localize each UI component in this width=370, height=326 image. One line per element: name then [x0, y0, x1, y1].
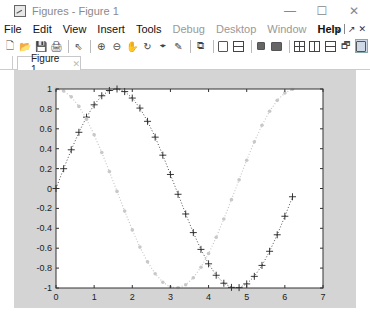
insert-legend-icon[interactable] — [232, 39, 245, 53]
undock-icon[interactable]: ↘ — [333, 24, 341, 34]
dot-marker — [153, 272, 157, 276]
zoom-out-icon[interactable]: ⊖ — [110, 39, 123, 53]
tab-figure-1[interactable]: Figure 1 ✕ — [17, 56, 81, 70]
tile-top-bottom-icon[interactable] — [324, 39, 337, 53]
hide-plot-tools-icon[interactable] — [255, 39, 268, 53]
line-plot[interactable]: 01234567-1-0.8-0.6-0.4-0.200.20.40.60.81 — [14, 70, 356, 308]
new-figure-icon[interactable]: 🗋 — [3, 39, 16, 53]
y-tick-label: -0.6 — [36, 243, 52, 253]
x-tick-label: 5 — [244, 292, 249, 302]
brush-icon[interactable]: ✎ — [172, 39, 185, 53]
edit-plot-icon[interactable]: ⇖ — [72, 39, 85, 53]
dot-marker — [130, 228, 134, 232]
show-plot-tools-icon[interactable] — [270, 39, 283, 53]
menu-insert[interactable]: Insert — [97, 23, 125, 35]
dot-marker — [62, 89, 66, 93]
toolbar-separator — [90, 40, 91, 53]
close-button[interactable]: ✕ — [338, 0, 370, 22]
float-icon[interactable]: 🗗 — [339, 39, 352, 53]
x-tick-label: 4 — [206, 292, 211, 302]
x-tick-label: 6 — [282, 292, 287, 302]
axes-background — [56, 89, 323, 288]
dot-marker — [146, 260, 150, 264]
dot-marker — [245, 158, 249, 162]
y-tick-label: -0.4 — [36, 223, 52, 233]
data-cursor-icon[interactable]: ⌖ — [156, 39, 169, 53]
y-tick-label: 0 — [47, 184, 52, 194]
y-tick-label: -1 — [44, 283, 52, 293]
menu-view[interactable]: View — [63, 23, 87, 35]
toolbar-separator — [68, 40, 69, 53]
dot-marker — [207, 252, 211, 256]
y-tick-label: 0.6 — [39, 124, 52, 134]
toolbar-separator — [289, 40, 290, 53]
dot-marker — [199, 265, 203, 269]
dock-separator — [344, 24, 345, 34]
menu-bar: File Edit View Insert Tools Debug Deskto… — [0, 22, 370, 36]
x-tick-label: 2 — [130, 292, 135, 302]
toolbar-separator — [213, 40, 214, 53]
y-tick-label: 0.4 — [39, 144, 52, 154]
maximize-button[interactable]: ☐ — [306, 0, 338, 22]
dock-controls: ↘ ↗ ✕ — [333, 22, 366, 36]
y-tick-label: -0.2 — [36, 203, 52, 213]
close-figure-icon[interactable]: ✕ — [358, 24, 366, 34]
menu-edit[interactable]: Edit — [33, 23, 52, 35]
maximize-figure-icon[interactable] — [355, 39, 369, 53]
window-title: Figures - Figure 1 — [32, 5, 119, 17]
menu-window[interactable]: Window — [267, 23, 306, 35]
float-window-icon[interactable]: ↗ — [348, 24, 356, 34]
tab-strip-edge — [12, 56, 13, 70]
open-file-icon[interactable]: 📂 — [18, 39, 31, 53]
dot-marker — [260, 124, 264, 128]
menu-tools[interactable]: Tools — [136, 23, 162, 35]
x-tick-label: 7 — [320, 292, 325, 302]
tab-close-icon[interactable]: ✕ — [72, 59, 80, 69]
dot-marker — [108, 170, 112, 174]
zoom-in-icon[interactable]: ⊕ — [94, 39, 107, 53]
menu-desktop[interactable]: Desktop — [216, 23, 256, 35]
window-controls: — ☐ ✕ — [274, 0, 370, 22]
print-icon[interactable]: 🖨 — [49, 39, 62, 53]
dot-marker — [69, 95, 73, 99]
save-icon[interactable]: 💾 — [34, 39, 47, 53]
minimize-button[interactable]: — — [274, 0, 306, 22]
dot-marker — [268, 109, 272, 113]
figure-canvas: 01234567-1-0.8-0.6-0.4-0.200.20.40.60.81 — [14, 70, 356, 308]
figure-tab-strip: Figure 1 ✕ — [0, 56, 370, 70]
dot-marker — [230, 198, 234, 202]
dot-marker — [253, 140, 257, 144]
rotate-3d-icon[interactable]: ↻ — [141, 39, 154, 53]
toolbar-separator — [190, 40, 191, 53]
y-tick-label: 1 — [47, 84, 52, 94]
x-tick-label: 1 — [92, 292, 97, 302]
dot-marker — [275, 99, 279, 103]
toolbar-separator — [251, 40, 252, 53]
y-tick-label: 0.8 — [39, 104, 52, 114]
dot-marker — [85, 117, 89, 121]
menu-debug[interactable]: Debug — [173, 23, 205, 35]
dot-marker — [138, 245, 142, 249]
tile-left-right-icon[interactable] — [308, 39, 321, 53]
dot-marker — [77, 105, 81, 109]
x-tick-label: 0 — [53, 292, 58, 302]
y-tick-label: -0.8 — [36, 263, 52, 273]
dot-marker — [192, 276, 196, 280]
matlab-figure-icon — [14, 5, 26, 17]
dot-marker — [222, 217, 226, 221]
dot-marker — [161, 280, 165, 284]
insert-colorbar-icon[interactable] — [217, 39, 230, 53]
title-bar: Figures - Figure 1 — ☐ ✕ — [0, 0, 370, 22]
link-plot-icon[interactable]: ⧉ — [194, 39, 207, 53]
dot-marker — [100, 151, 104, 155]
dot-marker — [184, 283, 188, 287]
dot-marker — [214, 235, 218, 239]
pan-icon[interactable]: ✋ — [125, 39, 138, 53]
dot-marker — [92, 133, 96, 137]
menu-file[interactable]: File — [4, 23, 22, 35]
y-tick-label: 0.2 — [39, 164, 52, 174]
dot-marker — [115, 190, 119, 194]
dot-marker — [237, 178, 241, 182]
x-tick-label: 3 — [168, 292, 173, 302]
tile-2x2-icon[interactable] — [293, 39, 306, 53]
